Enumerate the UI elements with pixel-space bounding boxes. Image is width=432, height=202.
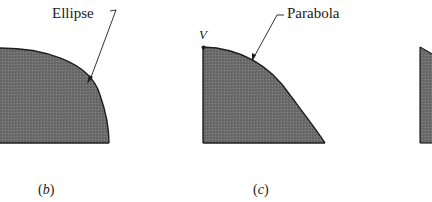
ellipse-label: Ellipse bbox=[52, 6, 94, 21]
caption-b-letter: b bbox=[43, 182, 50, 197]
caption-b: (b) bbox=[38, 183, 54, 197]
vertex-point bbox=[202, 46, 206, 50]
ellipse-region bbox=[0, 48, 109, 143]
panel-d-partial bbox=[420, 47, 432, 143]
partial-region bbox=[420, 47, 432, 143]
vertex-label: V bbox=[199, 28, 207, 41]
caption-c: (c) bbox=[253, 183, 269, 197]
parabola-leader-line bbox=[254, 15, 284, 57]
caption-b-close: ) bbox=[50, 182, 55, 197]
parabola-region bbox=[203, 47, 325, 143]
panel-b bbox=[0, 10, 116, 143]
parabola-label: Parabola bbox=[287, 6, 339, 21]
figure-canvas: Ellipse (b) V Parabola (c) bbox=[0, 0, 432, 202]
panel-c bbox=[202, 15, 326, 143]
figure-svg bbox=[0, 0, 432, 202]
caption-c-close: ) bbox=[264, 182, 269, 197]
